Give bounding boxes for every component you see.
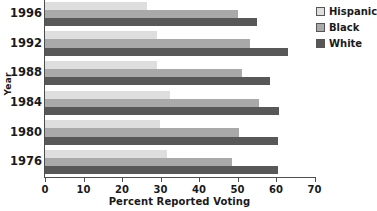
x-tick-label: 30 — [148, 184, 174, 195]
bar-black-1984 — [45, 99, 259, 107]
y-tick-label: 1992 — [8, 37, 42, 49]
legend-swatch-icon — [316, 7, 325, 16]
x-tick-label: 60 — [263, 184, 289, 195]
y-tick-label: 1976 — [8, 155, 42, 167]
x-tick-mark — [315, 177, 316, 182]
x-tick-label: 0 — [32, 184, 58, 195]
x-tick-mark — [122, 177, 123, 182]
y-axis-tick-labels: 199619921988198419801976 — [5, 0, 42, 178]
x-tick-mark — [161, 177, 162, 182]
legend-item-hispanic[interactable]: Hispanic — [316, 5, 374, 18]
x-tick-label: 70 — [302, 184, 328, 195]
y-tick-label: 1980 — [8, 126, 42, 138]
x-tick-label: 40 — [186, 184, 212, 195]
bar-white-1980 — [45, 137, 278, 145]
legend-label: Black — [329, 22, 359, 33]
x-tick-mark — [84, 177, 85, 182]
bar-hispanic-1976 — [45, 150, 167, 158]
x-tick-label: 10 — [71, 184, 97, 195]
x-tick-mark — [199, 177, 200, 182]
bar-white-1984 — [45, 107, 279, 115]
bar-white-1992 — [45, 48, 288, 56]
bar-black-1976 — [45, 158, 232, 166]
bar-hispanic-1988 — [45, 61, 157, 69]
bar-white-1976 — [45, 166, 278, 174]
legend-item-black[interactable]: Black — [316, 21, 374, 34]
bar-hispanic-1984 — [45, 91, 170, 99]
y-tick-label: 1988 — [8, 66, 42, 78]
bar-black-1980 — [45, 128, 239, 136]
x-tick-mark — [45, 177, 46, 182]
bar-white-1988 — [45, 77, 270, 85]
x-axis-title: Percent Reported Voting — [44, 196, 315, 207]
bar-black-1996 — [45, 10, 238, 18]
x-tick-label: 20 — [109, 184, 135, 195]
bar-black-1988 — [45, 69, 242, 77]
legend-swatch-icon — [316, 23, 325, 32]
bar-hispanic-1980 — [45, 120, 160, 128]
bar-black-1992 — [45, 39, 250, 47]
bar-hispanic-1992 — [45, 31, 157, 39]
y-tick-label: 1996 — [8, 7, 42, 19]
bar-hispanic-1996 — [45, 2, 147, 10]
x-tick-mark — [276, 177, 277, 182]
x-tick-mark — [238, 177, 239, 182]
bar-white-1996 — [45, 18, 257, 26]
legend-swatch-icon — [316, 39, 325, 48]
legend-label: White — [329, 38, 362, 49]
legend-label: Hispanic — [329, 6, 377, 17]
x-tick-label: 50 — [225, 184, 251, 195]
legend: HispanicBlackWhite — [316, 5, 374, 53]
plot-area: 010203040506070 — [44, 0, 315, 178]
legend-item-white[interactable]: White — [316, 37, 374, 50]
y-tick-label: 1984 — [8, 96, 42, 108]
